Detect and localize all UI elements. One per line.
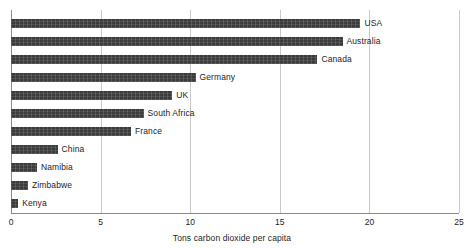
x-axis-line (11, 213, 459, 214)
bar-label: South Africa (148, 105, 195, 123)
bar-label: France (135, 123, 162, 141)
bar-row: USA (11, 15, 470, 33)
x-tick-label-10: 10 (185, 216, 194, 228)
bar (11, 145, 58, 154)
bar-row: South Africa (11, 105, 470, 123)
x-axis-title: Tons carbon dioxide per capita (0, 233, 470, 243)
bar (11, 163, 37, 172)
bar-label: Kenya (22, 195, 47, 213)
bar-label: Zimbabwe (32, 177, 72, 195)
bar-label: Germany (200, 69, 236, 87)
bar-row: Canada (11, 51, 470, 69)
bar-row: Germany (11, 69, 470, 87)
bar-label: Australia (347, 33, 381, 51)
bar (11, 199, 18, 208)
bar (11, 181, 28, 190)
bar-chart: USAAustraliaCanadaGermanyUKSouth AfricaF… (0, 0, 470, 248)
x-axis-tick-labels: 0510152025 (0, 216, 470, 230)
x-tick-label-25: 25 (454, 216, 463, 228)
bar (11, 73, 196, 82)
bar-row: Zimbabwe (11, 177, 470, 195)
bar (11, 91, 172, 100)
x-tick-label-5: 5 (98, 216, 103, 228)
bar (11, 37, 343, 46)
bar (11, 55, 317, 64)
bar-label: USA (364, 15, 382, 33)
plot-area: USAAustraliaCanadaGermanyUKSouth AfricaF… (11, 10, 459, 213)
bar-row: Kenya (11, 195, 470, 213)
x-axis-title-text: Tons carbon dioxide per capita (173, 233, 291, 243)
bar-row: Namibia (11, 159, 470, 177)
bar-row: France (11, 123, 470, 141)
bar-row: China (11, 141, 470, 159)
bar-label: Canada (321, 51, 351, 69)
bar (11, 127, 131, 136)
bar-row: Australia (11, 33, 470, 51)
bar-label: UK (176, 87, 188, 105)
x-tick-label-15: 15 (275, 216, 284, 228)
bar-label: China (62, 141, 85, 159)
bar (11, 109, 144, 118)
bar-label: Namibia (41, 159, 73, 177)
bar (11, 19, 360, 28)
x-tick-label-20: 20 (365, 216, 374, 228)
x-tick-label-0: 0 (9, 216, 14, 228)
bar-row: UK (11, 87, 470, 105)
